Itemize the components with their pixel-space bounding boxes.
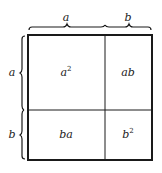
cell-ba: ba bbox=[59, 128, 73, 141]
top-label-a: a bbox=[63, 11, 70, 24]
cell-a-squared: a2 bbox=[60, 65, 71, 79]
side-label-a: a bbox=[9, 66, 16, 79]
area-model-diagram: a b a b a2 ab ba b2 bbox=[0, 0, 162, 173]
side-label-b: b bbox=[8, 128, 15, 141]
top-brace-a bbox=[29, 24, 105, 30]
top-label-b: b bbox=[124, 11, 131, 24]
cell-b-squared: b2 bbox=[122, 127, 134, 141]
left-brace-a bbox=[20, 36, 25, 110]
cell-ab: ab bbox=[121, 66, 135, 79]
left-brace-b bbox=[20, 110, 25, 159]
top-brace-b bbox=[105, 24, 151, 30]
outer-square bbox=[28, 35, 152, 160]
